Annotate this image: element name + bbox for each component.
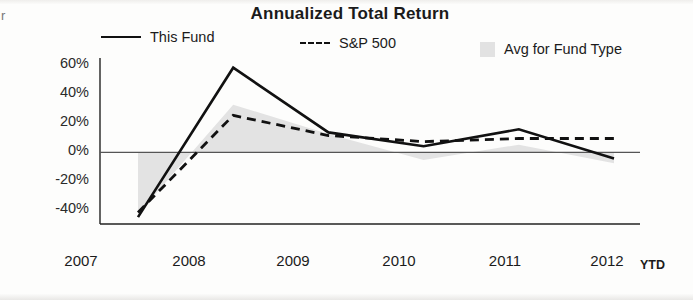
chart-plot-area xyxy=(92,58,640,240)
y-tick-label-m20: -20% xyxy=(35,171,89,187)
chart-legend: This Fund S&P 500 Avg for Fund Type xyxy=(95,26,675,52)
solid-line-swatch-icon xyxy=(101,36,141,38)
x-tick-label-2010: 2010 xyxy=(364,252,434,269)
sp500-line-series xyxy=(138,115,614,212)
x-tick-label-2011: 2011 xyxy=(470,252,540,269)
legend-label-sp-500: S&P 500 xyxy=(339,35,396,51)
y-tick-label-40: 40% xyxy=(35,84,89,100)
chart-title: Annualized Total Return xyxy=(205,4,495,24)
legend-item-avg-for-fund-type[interactable]: Avg for Fund Type xyxy=(480,38,622,60)
avg-area-series xyxy=(138,105,614,214)
x-tick-label-2007: 2007 xyxy=(46,252,116,269)
x-axis-ytd-note: YTD xyxy=(640,258,665,272)
y-tick-label-60: 60% xyxy=(35,55,89,71)
x-tick-label-2009: 2009 xyxy=(258,252,328,269)
x-tick-label-2012: 2012 xyxy=(572,252,642,269)
dashed-line-swatch-icon xyxy=(300,42,330,44)
x-tick-label-2008: 2008 xyxy=(154,252,224,269)
y-tick-label-0: 0% xyxy=(35,142,89,158)
chart-page: r Annualized Total Return This Fund S&P … xyxy=(0,0,693,300)
page-edge-bottom xyxy=(0,294,693,300)
legend-item-this-fund[interactable]: This Fund xyxy=(101,26,214,48)
legend-label-avg-for-fund-type: Avg for Fund Type xyxy=(504,41,622,57)
gray-box-swatch-icon xyxy=(480,42,495,57)
y-tick-label-20: 20% xyxy=(35,113,89,129)
legend-item-sp-500[interactable]: S&P 500 xyxy=(300,32,396,54)
page-margin-mark: r xyxy=(1,8,13,24)
y-tick-label-m40: -40% xyxy=(35,200,89,216)
legend-label-this-fund: This Fund xyxy=(150,29,214,45)
chart-svg xyxy=(92,58,640,240)
